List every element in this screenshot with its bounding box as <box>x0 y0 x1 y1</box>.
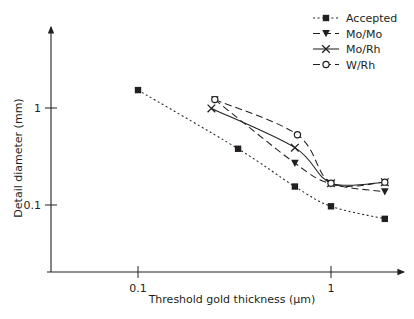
marker-square <box>323 15 329 21</box>
marker-triangle <box>291 160 299 167</box>
x-axis-title: Threshold gold thickness (µm) <box>148 293 316 306</box>
y-tick-label-1: 1 <box>34 102 41 115</box>
marker-square <box>292 183 298 189</box>
data-point <box>208 105 216 113</box>
data-point <box>291 160 299 167</box>
data-point <box>328 203 334 209</box>
x-tick-label-1: 1 <box>328 282 335 295</box>
data-point <box>382 179 388 185</box>
y-tick-label-0p1: 0.1 <box>24 199 42 212</box>
series-mo-rh <box>208 105 389 187</box>
chart-container: 1 0.1 Detail diameter (mm) 0.1 1 Thresho… <box>0 0 414 319</box>
axis-x: 0.1 1 Threshold gold thickness (µm) <box>47 266 404 306</box>
chart-legend: AcceptedMo/MoMo/RhW/Rh <box>313 12 397 72</box>
legend-item-mo-rh[interactable]: Mo/Rh <box>313 43 381 56</box>
data-point <box>328 180 334 186</box>
legend-item-accepted[interactable]: Accepted <box>313 12 397 25</box>
marker-square <box>328 203 334 209</box>
data-series-layer <box>135 87 389 222</box>
series-w-rh <box>212 97 388 187</box>
data-point <box>212 97 218 103</box>
marker-circle <box>294 132 300 138</box>
series-line <box>215 100 385 187</box>
legend-label: Accepted <box>346 12 397 25</box>
data-point <box>381 188 389 195</box>
legend-item-w-rh[interactable]: W/Rh <box>313 59 375 72</box>
marker-triangle <box>381 188 389 195</box>
x-tick-label-0p1: 0.1 <box>129 282 147 295</box>
legend-label: Mo/Mo <box>346 28 382 41</box>
legend-item-mo-mo[interactable]: Mo/Mo <box>313 28 382 41</box>
marker-circle <box>323 61 329 67</box>
axis-y: 1 0.1 Detail diameter (mm) <box>12 27 57 272</box>
marker-circle <box>212 97 218 103</box>
data-point <box>135 87 141 93</box>
data-point <box>235 146 241 152</box>
data-point <box>291 144 299 152</box>
marker-square <box>382 216 388 222</box>
marker-cross <box>291 144 299 152</box>
marker-cross <box>208 105 216 113</box>
legend-label: Mo/Rh <box>346 43 381 56</box>
data-point <box>294 132 300 138</box>
marker-square <box>235 146 241 152</box>
legend-marker <box>323 15 329 21</box>
data-point <box>382 216 388 222</box>
data-point <box>292 183 298 189</box>
series-accepted <box>135 87 388 222</box>
chart-svg: 1 0.1 Detail diameter (mm) 0.1 1 Thresho… <box>0 0 414 319</box>
marker-circle <box>328 180 334 186</box>
series-line <box>138 90 385 219</box>
marker-circle <box>382 179 388 185</box>
legend-label: W/Rh <box>346 59 375 72</box>
legend-marker <box>323 61 329 67</box>
marker-square <box>135 87 141 93</box>
y-axis-title: Detail diameter (mm) <box>12 98 25 217</box>
